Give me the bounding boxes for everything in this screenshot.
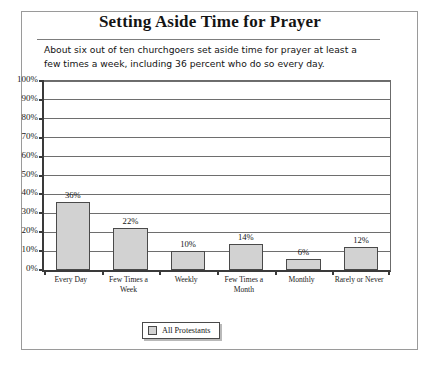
gridline [44, 175, 390, 176]
y-axis-tick-label: 60% [4, 150, 38, 160]
bar [171, 251, 206, 270]
bar-value-label: 12% [332, 235, 390, 245]
x-axis-category-label: Few Times a Month [215, 275, 273, 294]
y-axis-tick-label: 40% [4, 187, 38, 197]
y-axis-tick [39, 212, 44, 214]
gridline [44, 251, 390, 252]
legend-label-all-protestants: All Protestants [162, 326, 210, 335]
bar [344, 247, 379, 270]
y-axis-tick [39, 175, 44, 177]
bar-value-label: 6% [275, 247, 333, 257]
x-axis-category-label: Rarely or Never [330, 275, 388, 285]
bar-value-label: 14% [217, 232, 275, 242]
y-axis-tick [39, 118, 44, 120]
y-axis-tick [39, 99, 44, 101]
legend-swatch-all-protestants [148, 326, 157, 335]
bar-value-label: 22% [102, 216, 160, 226]
bar-value-label: 10% [159, 239, 217, 249]
figure-container: Setting Aside Time for Prayer About six … [0, 0, 439, 366]
chart-title: Setting Aside Time for Prayer [40, 12, 380, 32]
chart-subtitle: About six out of ten churchgoers set asi… [44, 43, 374, 71]
x-axis-category-labels: Every DayFew Times a WeekWeeklyFew Times… [42, 275, 391, 301]
bar [113, 228, 148, 270]
bar [286, 259, 321, 270]
y-axis-tick [39, 137, 44, 139]
gridline [44, 118, 390, 119]
y-axis-tick [39, 80, 44, 82]
y-axis-tick [39, 156, 44, 158]
gridline [44, 137, 390, 138]
gridline [44, 213, 390, 214]
plot-area: 36%22%10%14%6%12% [42, 80, 391, 272]
gridline [44, 81, 390, 82]
y-axis-tick-label: 10% [4, 244, 38, 254]
y-axis-tick-label: 0% [4, 263, 38, 273]
y-axis-tick-label: 30% [4, 206, 38, 216]
y-axis-tick [39, 250, 44, 252]
gridline [44, 99, 390, 100]
bar-value-label: 36% [44, 190, 102, 200]
y-axis-tick-label: 70% [4, 131, 38, 141]
y-axis-tick-label: 50% [4, 169, 38, 179]
chart-legend[interactable]: All Protestants [142, 322, 220, 339]
y-axis-tick-label: 90% [4, 93, 38, 103]
y-axis-tick [39, 231, 44, 233]
y-axis-tick-label: 80% [4, 112, 38, 122]
x-axis-category-label: Monthly [273, 275, 331, 285]
title-divider [37, 39, 380, 40]
y-axis-tick-label: 20% [4, 225, 38, 235]
bar [56, 202, 91, 270]
bar [229, 244, 264, 270]
x-axis-category-label: Few Times a Week [100, 275, 158, 294]
gridline [44, 156, 390, 157]
y-axis-tick-label: 100% [4, 74, 38, 84]
y-axis-labels: 0%10%20%30%40%50%60%70%80%90%100% [0, 80, 38, 272]
x-axis-category-label: Every Day [42, 275, 100, 285]
x-axis-category-label: Weekly [157, 275, 215, 285]
